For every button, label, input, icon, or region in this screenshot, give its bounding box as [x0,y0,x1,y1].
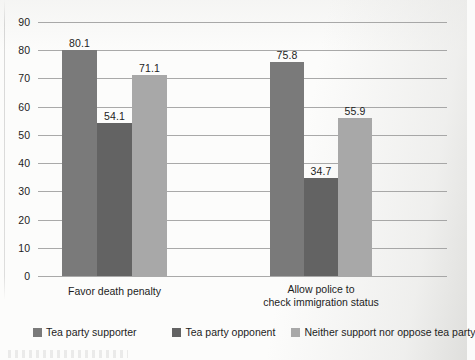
legend-label: Neither support nor oppose tea party [304,326,475,338]
page-artifact [8,350,128,358]
bar-value-label: 75.8 [277,49,298,61]
bar-value-label: 80.1 [69,37,90,49]
category-label: Favor death penalty [42,285,187,298]
bar[interactable]: 34.7 [304,178,338,276]
y-tick-label-90: 90 [4,17,30,27]
bar[interactable]: 75.8 [270,62,304,276]
y-tick-label-10: 10 [4,243,30,253]
legend-item[interactable]: Tea party opponent [172,326,275,338]
y-tick-label-50: 50 [4,130,30,140]
bar-value-label: 54.1 [104,110,125,122]
y-tick-label-0: 0 [4,271,30,281]
gridline-0 [38,276,447,277]
plot-area: 9080706050403020100 80.154.171.175.834.7… [38,22,447,276]
legend-swatch-icon [172,328,181,337]
legend-label: Tea party supporter [46,326,136,338]
legend-swatch-icon [291,328,300,337]
bar[interactable]: 71.1 [132,75,167,276]
y-tick-label-70: 70 [4,73,30,83]
bar[interactable]: 55.9 [338,118,372,276]
chart-legend: Tea party supporterTea party opponentNei… [33,326,475,338]
bar-value-label: 71.1 [139,62,160,74]
bar-series-container: 80.154.171.175.834.755.9 [38,22,447,276]
y-tick-label-20: 20 [4,215,30,225]
legend-item[interactable]: Tea party supporter [33,326,136,338]
bar[interactable]: 80.1 [62,50,97,276]
legend-label: Tea party opponent [185,326,275,338]
y-tick-label-40: 40 [4,158,30,168]
y-tick-label-60: 60 [4,102,30,112]
y-tick-label-80: 80 [4,45,30,55]
legend-item[interactable]: Neither support nor oppose tea party [291,326,475,338]
bar[interactable]: 54.1 [97,123,132,276]
y-tick-label-30: 30 [4,186,30,196]
bar-value-label: 34.7 [311,165,332,177]
legend-swatch-icon [33,328,42,337]
bar-value-label: 55.9 [345,105,366,117]
category-label: Allow police to check immigration status [250,283,392,308]
